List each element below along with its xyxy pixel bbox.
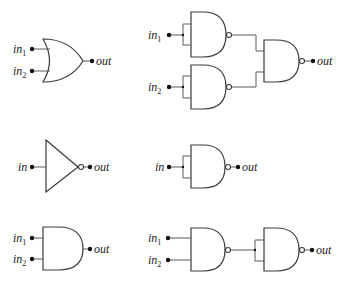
nand-or-bottom-to-final-wire <box>232 72 264 87</box>
nand-or-final-gate <box>264 40 299 82</box>
and-gate-group: in1 in2 out <box>13 227 110 270</box>
or-input-2-terminal <box>30 69 34 73</box>
nand-or-top-gate <box>191 12 226 57</box>
not-bubble <box>79 165 84 170</box>
nand-not-group: in out <box>155 145 258 188</box>
nand-and-group: in1 in2 out <box>148 228 332 271</box>
nand-or-input-1-label: in1 <box>148 28 161 44</box>
nand-not-input-terminal <box>167 165 171 169</box>
nand-or-final-bubble <box>300 59 305 64</box>
or-output-terminal <box>90 59 94 63</box>
nand-not-output-terminal <box>236 165 240 169</box>
nand-or-output-label: out <box>317 54 333 68</box>
nand-and-first-gate <box>191 228 225 271</box>
nand-and-input-2-label: in2 <box>148 253 161 269</box>
not-input-label: in <box>18 160 27 174</box>
nand-or-bottom-junction <box>182 86 184 88</box>
nand-and-input-2-terminal <box>166 258 170 262</box>
nand-and-output-terminal <box>310 248 314 252</box>
nand-or-top-to-final-wire <box>232 35 264 51</box>
nand-or-output-terminal <box>311 59 315 63</box>
and-input-1-label: in1 <box>13 231 26 247</box>
or-gate <box>43 39 83 82</box>
nand-not-input-label: in <box>155 160 164 174</box>
nand-and-tie-bracket <box>255 240 264 261</box>
nand-not-output-label: out <box>242 160 258 174</box>
nand-and-junction <box>254 249 256 251</box>
or-input-1-terminal <box>30 47 34 51</box>
or-output-label: out <box>96 54 112 68</box>
and-input-1-terminal <box>30 236 34 240</box>
nand-or-group: in1 in2 out <box>148 12 333 109</box>
and-output-label: out <box>94 242 110 256</box>
and-input-2-terminal <box>30 257 34 261</box>
nand-and-output-label: out <box>316 243 332 257</box>
or-input-2-label: in2 <box>13 64 26 80</box>
nand-or-input-2-terminal <box>167 85 171 89</box>
not-gate-group: in out <box>18 140 110 192</box>
nand-or-top-junction <box>182 34 184 36</box>
not-gate <box>46 140 78 192</box>
nand-or-top-bubble <box>227 33 232 38</box>
nand-and-second-gate <box>264 228 299 271</box>
not-output-terminal <box>88 165 92 169</box>
nand-not-bubble <box>226 165 231 170</box>
and-input-2-label: in2 <box>13 252 26 268</box>
nand-and-first-bubble <box>226 248 231 253</box>
nand-or-bottom-bubble <box>227 85 232 90</box>
nand-or-top-tie-bracket <box>183 24 191 45</box>
nand-or-input-2-label: in2 <box>148 80 161 96</box>
nand-and-input-1-terminal <box>166 236 170 240</box>
logic-gates-diagram: in1 in2 out in1 in2 out <box>0 0 346 285</box>
or-gate-group: in1 in2 out <box>13 39 112 82</box>
nand-not-junction <box>182 166 184 168</box>
nand-or-input-1-terminal <box>167 33 171 37</box>
or-input-1-label: in1 <box>13 42 26 58</box>
nand-and-second-bubble <box>300 248 305 253</box>
diagram-canvas: in1 in2 out in1 in2 out <box>0 0 346 285</box>
nand-and-input-1-label: in1 <box>148 231 161 247</box>
nand-or-bottom-gate <box>191 65 226 109</box>
and-gate <box>43 227 83 270</box>
and-output-terminal <box>88 247 92 251</box>
nand-not-gate <box>191 145 225 188</box>
not-output-label: out <box>94 160 110 174</box>
not-input-terminal <box>30 165 34 169</box>
